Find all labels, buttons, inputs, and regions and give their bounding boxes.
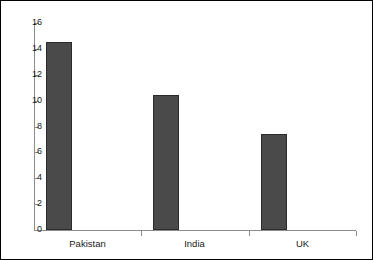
y-axis-tick: 8 [1, 122, 42, 131]
y-axis-tick-label: 14 [16, 44, 42, 53]
x-axis-category-label: UK [249, 238, 356, 249]
x-axis-category-label: Pakistan [34, 238, 141, 249]
y-axis-tick-label: 12 [16, 70, 42, 79]
y-axis-tick-label: 8 [16, 122, 42, 131]
bar [46, 42, 72, 230]
x-axis-category-label: India [141, 238, 248, 249]
y-axis-tick-label: 0 [16, 225, 42, 234]
y-axis-tick: 16 [1, 18, 42, 27]
y-axis-tick-label: 4 [16, 173, 42, 182]
x-axis-end-tick-mark [356, 231, 357, 236]
bar [153, 95, 179, 230]
y-axis-tick: 0 [1, 225, 42, 234]
y-axis-tick: 2 [1, 199, 42, 208]
y-axis-tick: 4 [1, 173, 42, 182]
bar [261, 134, 287, 230]
y-axis-tick: 10 [1, 96, 42, 105]
y-axis-tick-label: 16 [16, 18, 42, 27]
x-axis-line [34, 230, 356, 231]
x-axis-tick-mark [249, 231, 250, 236]
y-axis-tick-label: 2 [16, 199, 42, 208]
y-axis-tick: 14 [1, 44, 42, 53]
y-axis-tick-label: 6 [16, 147, 42, 156]
y-axis-tick-label: 10 [16, 96, 42, 105]
y-axis-tick: 6 [1, 147, 42, 156]
y-axis-tick: 12 [1, 70, 42, 79]
chart-screenshot: 1614121086420 PakistanIndiaUK [0, 0, 373, 260]
x-axis-tick-mark [141, 231, 142, 236]
bar-chart: 1614121086420 PakistanIndiaUK [1, 1, 372, 259]
